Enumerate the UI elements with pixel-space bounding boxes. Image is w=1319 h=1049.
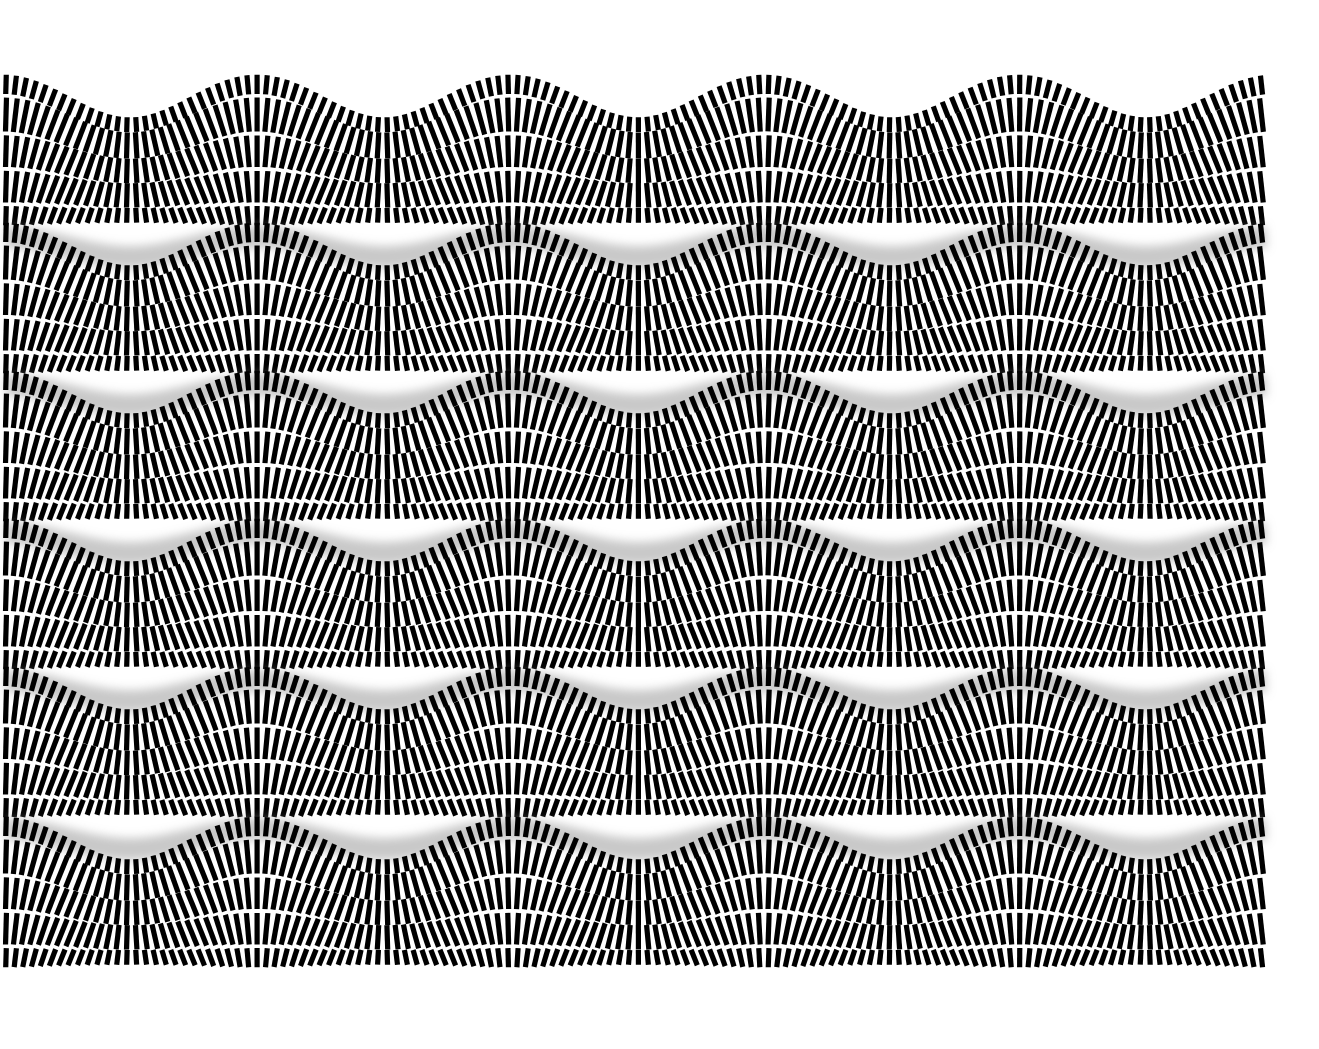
wavy-bar-illusion [0,0,1319,1049]
